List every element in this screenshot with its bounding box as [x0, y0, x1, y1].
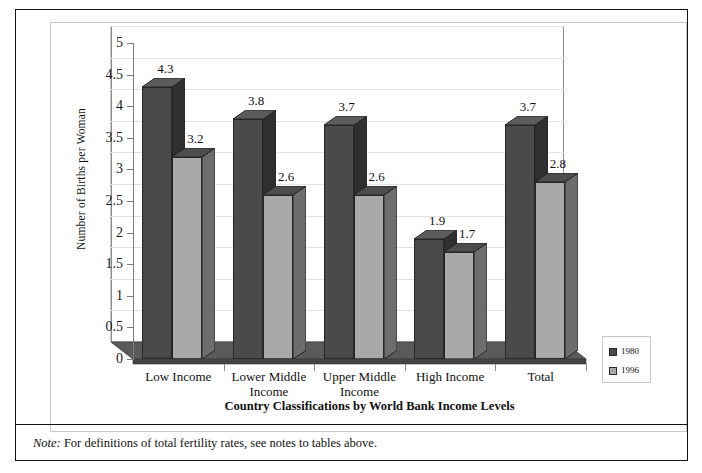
- y-axis-tick: [127, 327, 134, 328]
- y-axis-tick: [127, 296, 134, 297]
- footnote-text: For definitions of total fertility rates…: [61, 436, 377, 450]
- bar-value-label: 2.6: [278, 169, 294, 185]
- footnote: Note: For definitions of total fertility…: [33, 436, 377, 451]
- x-axis-category-label: High Income: [405, 369, 496, 384]
- gridline: [111, 26, 564, 27]
- x-axis-category-label-line: Income: [314, 384, 405, 399]
- chart-panel: 00.511.522.533.544.55 Number of Births p…: [50, 22, 687, 432]
- y-axis-tick: [127, 75, 134, 76]
- x-axis-category-label: Low Income: [133, 369, 224, 384]
- bar[interactable]: [172, 148, 215, 359]
- y-axis-tick-label: 3: [83, 162, 123, 176]
- bar[interactable]: [444, 243, 487, 359]
- legend-item-1[interactable]: 1996: [609, 366, 639, 375]
- footnote-prefix: Note:: [33, 436, 61, 450]
- y-axis-tick-label: 0.5: [83, 320, 123, 334]
- x-axis-tick: [586, 364, 587, 371]
- x-axis-category-label-line: Total: [495, 369, 586, 384]
- bar-value-label: 1.9: [429, 213, 445, 229]
- gridline: [111, 58, 564, 59]
- x-axis-category-label-line: Upper Middle: [314, 369, 405, 384]
- y-axis-tick-label: 2: [83, 226, 123, 240]
- y-axis-tick: [127, 233, 134, 234]
- x-axis-category-label-line: High Income: [405, 369, 496, 384]
- x-axis-category-label: Total: [495, 369, 586, 384]
- y-axis-tick: [127, 106, 134, 107]
- legend-label: 1996: [621, 366, 639, 375]
- y-axis-tick-label: 5: [83, 36, 123, 50]
- x-axis-category-label: Upper MiddleIncome: [314, 369, 405, 399]
- y-axis-tick: [127, 264, 134, 265]
- y-axis-tick: [127, 359, 134, 360]
- y-axis-title: Number of Births per Woman: [75, 89, 87, 269]
- bar-value-label: 2.8: [550, 156, 566, 172]
- legend-swatch-icon: [609, 367, 617, 375]
- footnote-divider: [16, 424, 687, 425]
- bar[interactable]: [354, 186, 397, 359]
- bar-value-label: 1.7: [459, 226, 475, 242]
- y-axis-tick: [127, 169, 134, 170]
- bar-value-label: 2.6: [369, 169, 385, 185]
- bar-value-label: 3.2: [187, 131, 203, 147]
- y-axis-tick-label: 3.5: [83, 131, 123, 145]
- y-axis-tick-label: 2.5: [83, 194, 123, 208]
- bar-3d-faces: [172, 148, 215, 359]
- x-axis-category-label-line: Income: [224, 384, 315, 399]
- bar-value-label: 3.7: [520, 99, 536, 115]
- y-axis-tick-label: 4: [83, 99, 123, 113]
- bar-3d-faces: [354, 186, 397, 359]
- bar-3d-faces: [535, 173, 578, 359]
- y-axis-tick-label: 0: [83, 352, 123, 366]
- legend-swatch-icon: [609, 348, 617, 356]
- bar-3d-faces: [263, 186, 306, 359]
- y-axis-tick-label: 1: [83, 289, 123, 303]
- bar-value-label: 3.8: [248, 93, 264, 109]
- x-axis-category-label-line: Low Income: [133, 369, 224, 384]
- bar-value-label: 3.7: [339, 99, 355, 115]
- chart-legend[interactable]: 1980 1996: [602, 336, 651, 383]
- x-axis-category-label: Lower MiddleIncome: [224, 369, 315, 399]
- y-axis-tick-label: 1.5: [83, 257, 123, 271]
- bar[interactable]: [263, 186, 306, 359]
- y-axis-tick-label: 4.5: [83, 68, 123, 82]
- legend-label: 1980: [621, 347, 639, 356]
- bar-3d-faces: [444, 243, 487, 359]
- figure-root: 00.511.522.533.544.55 Number of Births p…: [0, 0, 702, 473]
- x-axis-title: Country Classifications by World Bank In…: [51, 399, 688, 414]
- y-axis-tick: [127, 138, 134, 139]
- legend-item-0[interactable]: 1980: [609, 347, 639, 356]
- y-axis-tick: [127, 43, 134, 44]
- plot-area: 00.511.522.533.544.55 Number of Births p…: [51, 23, 688, 433]
- x-axis-category-label-line: Lower Middle: [224, 369, 315, 384]
- bar-value-label: 4.3: [157, 61, 173, 77]
- y-axis-tick: [127, 201, 134, 202]
- bar[interactable]: [535, 173, 578, 359]
